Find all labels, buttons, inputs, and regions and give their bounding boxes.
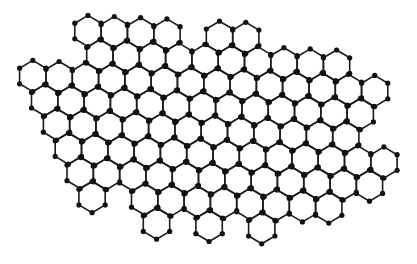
- atom-dot: [281, 45, 286, 50]
- atom-dot: [170, 167, 175, 172]
- atom-dot: [355, 143, 360, 148]
- atom-dot: [142, 181, 147, 186]
- atom-dot: [217, 19, 222, 24]
- atom-dot: [220, 231, 225, 236]
- atom-dot: [246, 218, 251, 223]
- atom-dot: [356, 127, 361, 132]
- atom-dot: [83, 60, 88, 65]
- atom-dot: [276, 140, 281, 145]
- atom-dot: [146, 119, 151, 124]
- atom-dot: [268, 53, 273, 58]
- atom-dot: [342, 151, 347, 156]
- atom-dot: [339, 197, 344, 202]
- atom-dot: [313, 197, 318, 202]
- atom-dot: [289, 149, 294, 154]
- atom-dot: [213, 98, 218, 103]
- atom-dot: [221, 185, 226, 190]
- atom-dot: [272, 233, 277, 238]
- atom-dot: [367, 167, 372, 172]
- atom-dot: [104, 156, 109, 161]
- atom-dot: [214, 66, 219, 71]
- atom-dot: [267, 68, 272, 73]
- atom-dot: [72, 21, 77, 26]
- atom-dot: [380, 175, 385, 180]
- atom-dot: [313, 213, 318, 218]
- atom-dot: [171, 135, 176, 140]
- atom-dot: [43, 67, 48, 72]
- atom-dot: [130, 157, 135, 162]
- atom-dot: [216, 51, 221, 56]
- atom-dot: [103, 202, 108, 207]
- atom-dot: [263, 148, 268, 153]
- atom-dot: [302, 141, 307, 146]
- atom-dot: [149, 71, 154, 76]
- atom-dot: [79, 139, 84, 144]
- atom-dot: [151, 24, 156, 29]
- atom-dot: [385, 81, 390, 86]
- atom-dot: [381, 144, 386, 149]
- atom-dot: [250, 139, 255, 144]
- atom-dot: [372, 73, 377, 78]
- atom-dot: [238, 114, 243, 119]
- atom-dot: [347, 55, 352, 60]
- atom-dot: [333, 80, 338, 85]
- atom-dot: [76, 202, 81, 207]
- atom-dot: [107, 109, 112, 114]
- atom-dot: [80, 107, 85, 112]
- atom-dot: [121, 86, 126, 91]
- atom-dot: [178, 24, 183, 29]
- atom-dot: [154, 237, 159, 242]
- atom-dot: [343, 119, 348, 124]
- atom-dot: [53, 154, 58, 159]
- atom-dot: [185, 112, 190, 117]
- atom-dot: [157, 158, 162, 163]
- atom-dot: [345, 104, 350, 109]
- atom-dot: [209, 160, 214, 165]
- atom-dot: [225, 122, 230, 127]
- atom-dot: [275, 172, 280, 177]
- atom-dot: [42, 82, 47, 87]
- atom-dot: [380, 191, 385, 196]
- atom-dot: [292, 101, 297, 106]
- atom-dot: [99, 22, 104, 27]
- atom-dot: [197, 136, 202, 141]
- atom-dot: [316, 150, 321, 155]
- atom-dot: [252, 91, 257, 96]
- atom-dot: [242, 52, 247, 57]
- atom-dot: [208, 193, 213, 198]
- atom-dot: [168, 182, 173, 187]
- atom-dot: [137, 47, 142, 52]
- atom-dot: [125, 23, 130, 28]
- atom-dot: [57, 59, 62, 64]
- atom-dot: [118, 133, 123, 138]
- atom-dot: [314, 165, 319, 170]
- atom-dot: [334, 47, 339, 52]
- atom-dot: [212, 113, 217, 118]
- atom-dot: [176, 41, 181, 46]
- atom-dot: [97, 37, 102, 42]
- atom-dot: [260, 195, 265, 200]
- atom-dot: [64, 178, 69, 183]
- atom-dot: [17, 66, 22, 71]
- atom-dot: [305, 94, 310, 99]
- atom-dot: [158, 143, 163, 148]
- atom-dot: [90, 210, 95, 215]
- atom-dot: [272, 218, 277, 223]
- atom-dot: [167, 229, 172, 234]
- atom-dot: [220, 216, 225, 221]
- atom-dot: [55, 91, 60, 96]
- atom-dot: [224, 137, 229, 142]
- atom-dot: [141, 229, 146, 234]
- atom-dot: [91, 164, 96, 169]
- atom-dot: [64, 163, 69, 168]
- atom-dot: [368, 152, 373, 157]
- atom-dot: [317, 118, 322, 123]
- atom-dot: [150, 39, 155, 44]
- atom-dot: [243, 20, 248, 25]
- atom-dot: [162, 64, 167, 69]
- atom-dot: [68, 83, 73, 88]
- atom-dot: [184, 144, 189, 149]
- atom-dot: [207, 239, 212, 244]
- atom-dot: [202, 42, 207, 47]
- atom-dot: [120, 118, 125, 123]
